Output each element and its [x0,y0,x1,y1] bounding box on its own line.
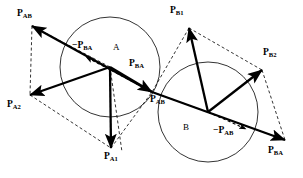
vector-p-ab-junction-label-base: P [150,94,156,104]
dash-pa1-to-junction [111,92,152,148]
vector-p-ba-center-label-base: P [129,58,135,68]
vector-p-a1 [110,67,111,148]
body-b-label: B [183,123,189,132]
vector-p-ba-center-label: PBA [129,59,144,69]
dash-pb2-to-pba [262,70,285,140]
vector-p-b1-label: PB1 [170,6,184,16]
vector-neg-p-ba-label-subscript: BA [83,44,92,51]
dash-pab-to-pa2 [30,26,32,95]
vector-neg-p-ab-label: −PAB [213,126,233,136]
vector-p-b1-label-base: P [170,5,176,15]
vector-p-a1-label: PA1 [104,152,118,162]
vector-p-ab-upleft-label-base: P [17,8,23,18]
vector-p-a2-label-subscript: A2 [13,103,21,110]
body-a-label: A [113,43,120,52]
dash-pa2-to-pa1 [30,95,111,148]
vector-p-ba-lower-label-base: P [268,145,274,155]
vector-p-ab-upleft-label: PAB [17,9,32,19]
dash-pb1-to-pb2 [189,28,262,70]
vector-neg-p-ab-label-base: −P [213,125,224,135]
vector-p-ba-lower-label-subscript: BA [274,149,283,156]
diagram-canvas [0,0,303,178]
vector-p-b1 [189,28,208,112]
vector-p-b2-label: PB2 [263,48,277,58]
vector-p-a1-label-base: P [104,151,110,161]
vector-p-b1-label-subscript: B1 [176,9,184,16]
vector-neg-p-ba-label-base: −P [72,40,83,50]
force-vectors-layer [30,26,285,148]
vector-neg-p-ab-label-subscript: AB [224,129,233,136]
body-circles-layer [60,17,258,162]
vector-p-a2-label: PA2 [7,100,21,110]
vector-p-a2 [30,67,110,95]
vector-p-ab-junction-label: PAB [150,95,165,105]
vector-p-b2-label-base: P [263,47,269,57]
vector-p-ba-center [110,67,152,92]
vector-diagram-figure: ABPAB−PBAPA2PA1PBAPABPB1PB2−PABPBA [0,0,303,178]
vector-p-b2-label-subscript: B2 [269,51,277,58]
vector-p-a1-label-subscript: A1 [110,155,118,162]
vector-p-ab-upleft-label-subscript: AB [23,12,32,19]
vector-p-ba-center-label-subscript: BA [135,62,144,69]
vector-p-ba-lower-label: PBA [268,146,283,156]
vector-neg-p-ba-label: −PBA [72,41,92,51]
vector-p-a2-label-base: P [7,99,13,109]
vector-p-ab-junction-label-subscript: AB [156,98,165,105]
vector-p-b2 [208,70,262,112]
